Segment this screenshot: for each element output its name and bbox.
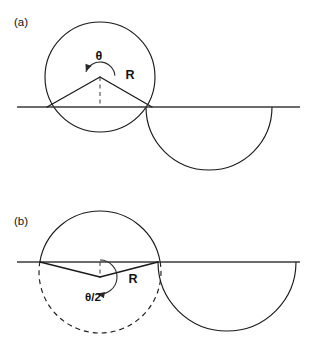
panel-b-radius-label: R <box>128 272 137 286</box>
panel-a-angle-label: θ <box>96 49 103 63</box>
panel-b-radius-line-left <box>40 262 100 277</box>
panel-a-angle-arc <box>86 62 115 76</box>
panel-b-main-circle-solid-arc <box>40 211 160 262</box>
panel-a-radius-line-left <box>47 77 100 107</box>
panel-b-secondary-arc <box>158 262 296 331</box>
figure-container: (a)θR(b)θ/2R <box>0 0 314 358</box>
panel-b-angle-label: θ/2 <box>85 291 101 303</box>
panel-a-radius-label: R <box>125 68 134 82</box>
geometry-diagram: (a)θR(b)θ/2R <box>0 0 314 358</box>
panel-a-label: (a) <box>14 16 28 28</box>
panel-b-label: (b) <box>14 215 28 227</box>
panel-a-secondary-arc <box>146 107 272 170</box>
